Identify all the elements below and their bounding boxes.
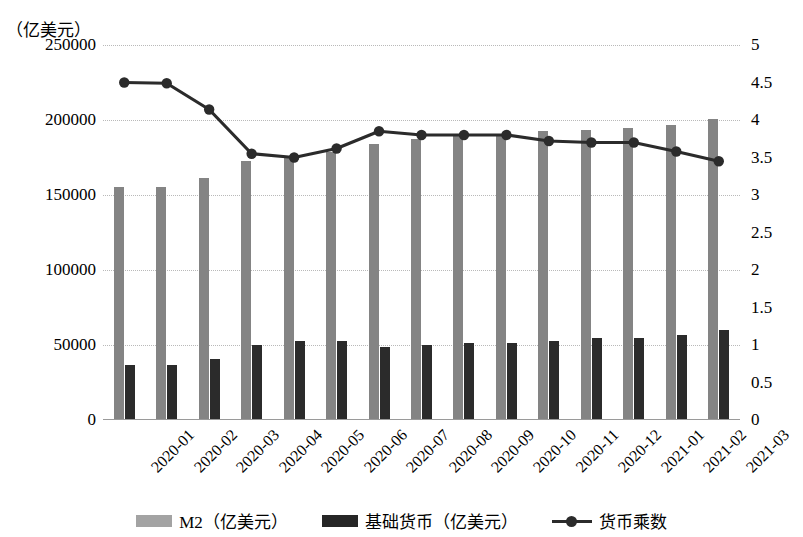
line-marker bbox=[162, 78, 172, 88]
x-axis-ticks: 2020-012020-022020-032020-042020-052020-… bbox=[103, 420, 740, 520]
x-axis-tick-label: 2020-02 bbox=[190, 426, 240, 476]
legend-item[interactable]: M2（亿美元） bbox=[136, 508, 288, 533]
line-marker bbox=[246, 149, 256, 159]
x-axis-tick-label: 2020-10 bbox=[530, 426, 580, 476]
right-axis-tick-label: 1 bbox=[751, 335, 760, 355]
legend-label: 货币乘数 bbox=[599, 508, 667, 533]
right-axis-tick-label: 5 bbox=[751, 35, 760, 55]
chart-legend: M2（亿美元）基础货币（亿美元）货币乘数 bbox=[0, 508, 803, 533]
line-marker bbox=[501, 130, 511, 140]
right-axis-tick-label: 1.5 bbox=[751, 298, 772, 318]
left-axis-tick-label: 150000 bbox=[45, 185, 96, 205]
x-axis-tick-label: 2020-05 bbox=[318, 426, 368, 476]
line-marker bbox=[289, 152, 299, 162]
legend-color-swatch bbox=[322, 515, 358, 527]
left-axis-tick-label: 200000 bbox=[45, 110, 96, 130]
right-axis-tick-label: 3 bbox=[751, 185, 760, 205]
x-axis-tick-label: 2021-01 bbox=[657, 426, 707, 476]
line-marker bbox=[416, 130, 426, 140]
x-axis-tick-label: 2020-12 bbox=[615, 426, 665, 476]
right-axis-tick-label: 2.5 bbox=[751, 223, 772, 243]
left-axis-tick-label: 0 bbox=[88, 410, 97, 430]
legend-color-swatch bbox=[136, 515, 172, 527]
right-axis-tick-label: 2 bbox=[751, 260, 760, 280]
money-multiplier-line bbox=[124, 83, 719, 162]
chart-figure: （亿美元） 050000100000150000200000250000 00.… bbox=[0, 0, 803, 537]
x-axis-tick-label: 2020-08 bbox=[445, 426, 495, 476]
x-axis-tick-label: 2020-07 bbox=[403, 426, 453, 476]
line-marker bbox=[204, 104, 214, 114]
right-axis-tick-label: 4 bbox=[751, 110, 760, 130]
right-axis-tick-label: 4.5 bbox=[751, 73, 772, 93]
line-marker bbox=[119, 77, 129, 87]
x-axis-tick-label: 2020-09 bbox=[488, 426, 538, 476]
x-axis-tick-label: 2020-11 bbox=[572, 426, 622, 476]
left-axis-ticks: 050000100000150000200000250000 bbox=[0, 0, 96, 537]
line-marker bbox=[459, 130, 469, 140]
right-axis-tick-label: 0.5 bbox=[751, 373, 772, 393]
left-axis-tick-label: 50000 bbox=[54, 335, 97, 355]
left-axis-tick-label: 100000 bbox=[45, 260, 96, 280]
legend-line-marker-icon bbox=[552, 515, 592, 527]
right-axis-tick-label: 3.5 bbox=[751, 148, 772, 168]
legend-label: 基础货币（亿美元） bbox=[365, 508, 518, 533]
line-marker bbox=[629, 137, 639, 147]
legend-item[interactable]: 基础货币（亿美元） bbox=[322, 508, 518, 533]
line-marker bbox=[586, 137, 596, 147]
legend-item[interactable]: 货币乘数 bbox=[552, 508, 667, 533]
legend-label: M2（亿美元） bbox=[179, 508, 288, 533]
line-marker bbox=[374, 126, 384, 136]
line-marker bbox=[331, 143, 341, 153]
x-axis-tick-label: 2021-02 bbox=[700, 426, 750, 476]
x-axis-tick-label: 2020-04 bbox=[275, 426, 325, 476]
right-axis-tick-label: 0 bbox=[751, 410, 760, 430]
line-marker bbox=[714, 156, 724, 166]
x-axis-tick-label: 2020-03 bbox=[233, 426, 283, 476]
line-marker bbox=[544, 136, 554, 146]
line-series-layer bbox=[103, 45, 740, 420]
x-axis-tick-label: 2020-01 bbox=[148, 426, 198, 476]
x-axis-tick-label: 2020-06 bbox=[360, 426, 410, 476]
plot-area bbox=[103, 45, 740, 420]
left-axis-tick-label: 250000 bbox=[45, 35, 96, 55]
line-marker bbox=[671, 146, 681, 156]
